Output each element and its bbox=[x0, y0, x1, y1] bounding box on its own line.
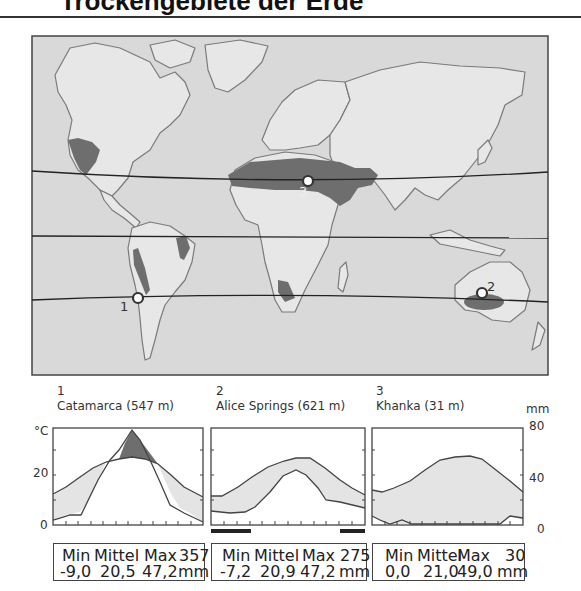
max-value: 47,2 bbox=[300, 562, 336, 581]
temperature-unit-label: °C bbox=[34, 424, 48, 438]
min-value: -7,2 bbox=[220, 562, 251, 581]
mittel-value: 21,0 bbox=[423, 562, 459, 581]
precipitation-unit: mm bbox=[339, 562, 370, 581]
min-value: 0,0 bbox=[385, 562, 410, 581]
station-3-name: Khanka (31 m) bbox=[376, 399, 464, 413]
temperature-tick-20: 20 bbox=[33, 466, 48, 480]
marker-label-3: 3 bbox=[299, 184, 307, 199]
precipitation-tick-0: 0 bbox=[537, 522, 545, 536]
marker-station-2[interactable] bbox=[477, 288, 487, 298]
precipitation-unit: mm bbox=[497, 562, 528, 581]
precipitation-unit-label: mm bbox=[526, 402, 549, 416]
precipitation-tick-80: 80 bbox=[529, 419, 544, 433]
station-2-name: Alice Springs (621 m) bbox=[216, 399, 345, 413]
mittel-value: 20,5 bbox=[100, 562, 136, 581]
marker-label-2: 2 bbox=[487, 279, 495, 294]
station-1-number: 1 bbox=[57, 384, 65, 398]
station-3-number: 3 bbox=[376, 384, 384, 398]
stats-box-khanka: Min Mittel Max 30 0,0 21,0 49,0 mm bbox=[372, 543, 525, 581]
mittel-value: 20,9 bbox=[260, 562, 296, 581]
stats-box-alice-springs: Min Mittel Max 275 -7,2 20,9 47,2 mm bbox=[211, 543, 367, 581]
max-value: 49,0 bbox=[457, 562, 493, 581]
temperature-tick-0: 0 bbox=[40, 518, 48, 532]
marker-label-1: 1 bbox=[120, 299, 128, 314]
precipitation-tick-40: 40 bbox=[529, 471, 544, 485]
marker-station-1[interactable] bbox=[133, 293, 143, 303]
min-value: -9,0 bbox=[60, 562, 91, 581]
max-value: 47,2 bbox=[142, 562, 178, 581]
world-map bbox=[0, 0, 581, 591]
station-1-name: Catamarca (547 m) bbox=[57, 399, 174, 413]
precipitation-unit: mm bbox=[178, 562, 209, 581]
stats-box-catamarca: Min Mittel Max 357 -9,0 20,5 47,2 mm bbox=[53, 543, 205, 581]
station-2-number: 2 bbox=[216, 384, 224, 398]
